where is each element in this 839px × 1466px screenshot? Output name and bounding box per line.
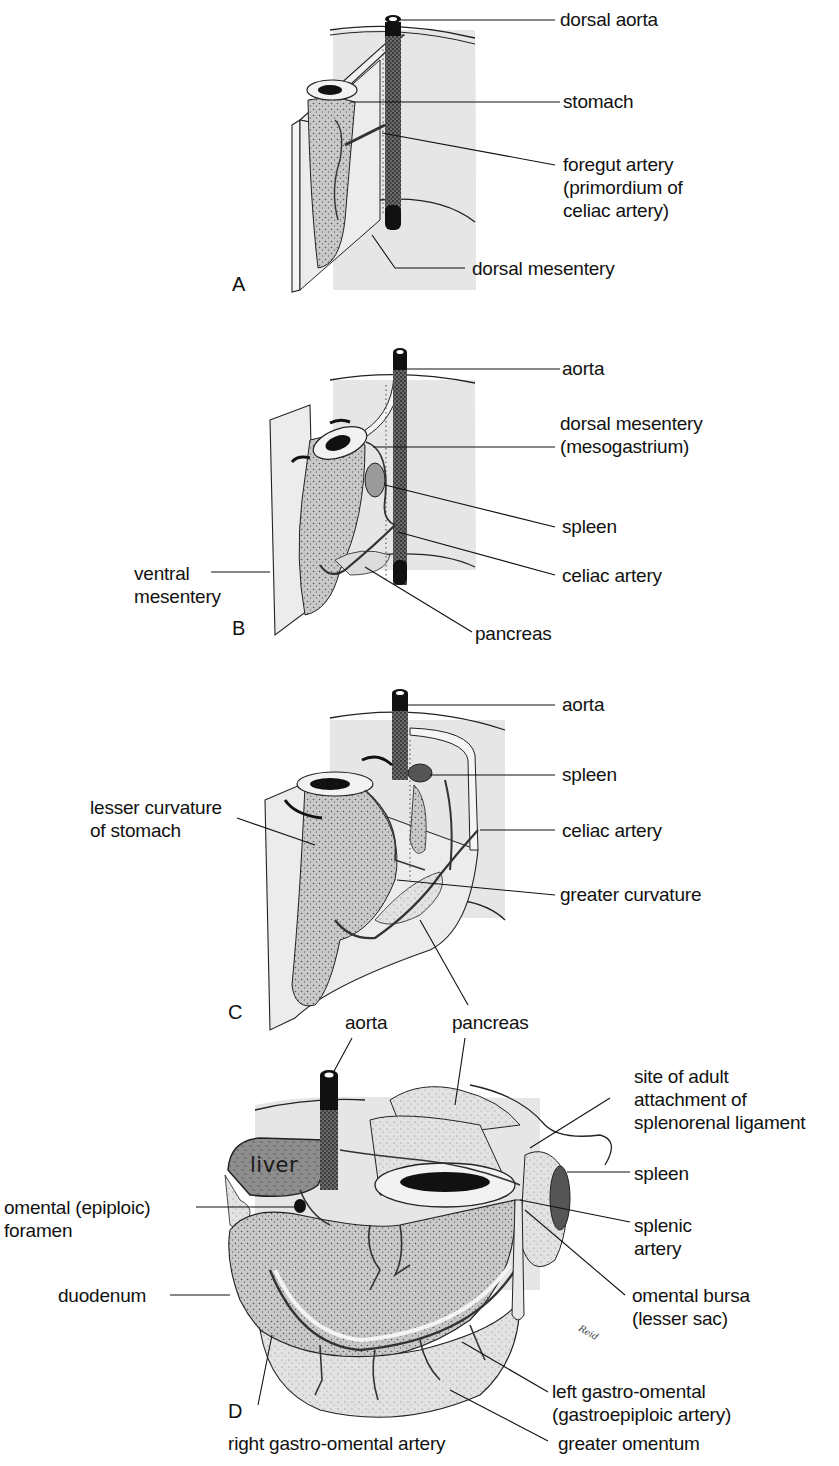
label-spleen-d: spleen: [634, 1162, 689, 1185]
label-aorta-d: aorta: [345, 1011, 387, 1034]
svg-text:Reid: Reid: [576, 1323, 600, 1343]
label-left-gastro-omental: left gastro-omental (gastroepiploic arte…: [552, 1380, 731, 1426]
label-greater-curvature: greater curvature: [560, 883, 701, 906]
label-right-gastro-omental: right gastro-omental artery: [228, 1432, 445, 1455]
label-aorta-c: aorta: [562, 693, 604, 716]
label-duodenum: duodenum: [58, 1284, 146, 1307]
panel-b-drawing: [270, 348, 476, 635]
label-greater-omentum: greater omentum: [558, 1432, 700, 1455]
panel-letter-a: A: [232, 273, 245, 296]
label-dorsal-mesentery-b: dorsal mesentery (mesogastrium): [560, 412, 703, 458]
label-lesser-curvature: lesser curvature of stomach: [90, 796, 222, 842]
label-omental-foramen: omental (epiploic) foramen: [4, 1196, 150, 1242]
panel-c-drawing: [265, 689, 505, 1030]
label-ventral-mesentery: ventral mesentery: [134, 562, 221, 608]
panel-letter-c: C: [228, 1001, 242, 1024]
label-splenic-artery: splenic artery: [634, 1214, 692, 1260]
label-spleen-b: spleen: [562, 515, 617, 538]
label-pancreas-b: pancreas: [475, 622, 552, 645]
label-celiac-artery-b: celiac artery: [562, 564, 662, 587]
label-foregut-artery: foregut artery (primordium of celiac art…: [563, 153, 683, 222]
label-dorsal-mesentery-a: dorsal mesentery: [472, 257, 615, 280]
liver-organ-label: liver: [250, 1153, 298, 1177]
panel-d-drawing: Reid: [225, 1070, 611, 1417]
panel-a-drawing: [292, 15, 476, 292]
label-omental-bursa: omental bursa (lesser sac): [632, 1284, 750, 1330]
label-pancreas-c: pancreas: [452, 1011, 529, 1034]
label-spleen-c: spleen: [562, 763, 617, 786]
panel-letter-d: D: [228, 1400, 242, 1423]
label-splenorenal-site: site of adult attachment of splenorenal …: [634, 1065, 805, 1134]
embryology-illustration: Reid: [0, 0, 839, 1466]
panel-letter-b: B: [232, 617, 245, 640]
label-celiac-artery-c: celiac artery: [562, 819, 662, 842]
label-aorta-b: aorta: [562, 357, 604, 380]
label-stomach-a: stomach: [563, 90, 633, 113]
label-dorsal-aorta: dorsal aorta: [560, 8, 658, 31]
